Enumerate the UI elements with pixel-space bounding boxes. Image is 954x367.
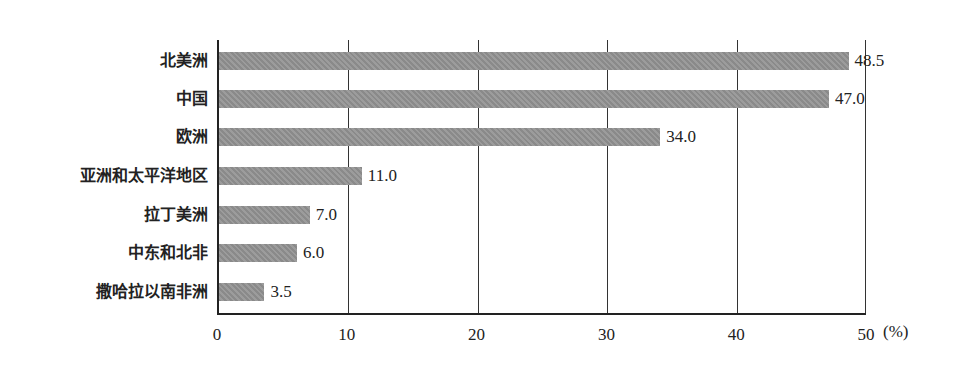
bar [219,90,829,108]
x-tick-label: 20 [468,325,485,345]
value-label: 47.0 [835,90,865,108]
category-label: 撒哈拉以南非洲 [96,283,208,301]
category-label: 拉丁美洲 [144,206,208,224]
bar [219,206,310,224]
category-label: 中东和北非 [128,244,208,262]
bar [219,128,660,146]
value-label: 3.5 [270,283,291,301]
bar [219,244,297,262]
value-label: 11.0 [368,167,397,185]
gridline [737,40,738,313]
x-axis-unit: (%) [883,322,908,342]
category-label: 北美洲 [160,52,208,70]
value-label: 34.0 [666,128,696,146]
value-label: 48.5 [855,52,885,70]
gridline [478,40,479,313]
x-tick-label: 30 [598,325,615,345]
bar-chart: 48.547.034.011.07.06.03.5 (%) 北美洲中国欧洲亚洲和… [0,0,954,367]
bar [219,167,362,185]
x-tick-label: 40 [728,325,745,345]
x-tick-label: 50 [858,325,875,345]
category-label: 欧洲 [176,128,208,146]
value-label: 7.0 [316,206,337,224]
category-label: 亚洲和太平洋地区 [80,167,208,185]
category-label: 中国 [176,90,208,108]
bar [219,52,849,70]
value-label: 6.0 [303,244,324,262]
x-tick-label: 10 [338,325,355,345]
x-tick-label: 0 [213,325,222,345]
gridline [607,40,608,313]
gridline [865,40,866,313]
bar [219,283,264,301]
plot-area: 48.547.034.011.07.06.03.5 [217,40,866,315]
